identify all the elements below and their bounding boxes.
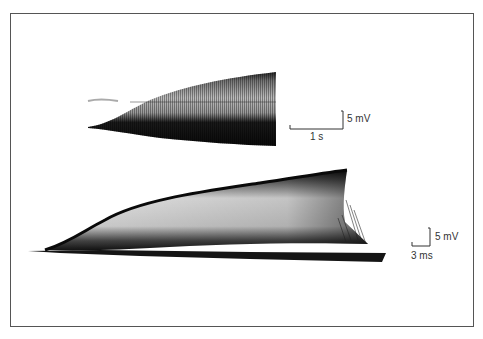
bottom-trace bbox=[28, 170, 386, 262]
figure-canvas bbox=[0, 0, 483, 339]
top-scale-bar bbox=[290, 111, 343, 129]
bottom-time-label: 3 ms bbox=[411, 251, 433, 261]
bottom-scale-bar bbox=[412, 228, 430, 246]
top-voltage-label: 5 mV bbox=[347, 114, 370, 124]
top-envelope-hatching bbox=[88, 72, 276, 146]
top-trace bbox=[88, 72, 276, 146]
top-time-label: 1 s bbox=[310, 132, 323, 142]
bottom-baseline-band bbox=[28, 250, 386, 262]
bottom-voltage-label: 5 mV bbox=[435, 232, 458, 242]
artifact-mark bbox=[88, 100, 118, 102]
